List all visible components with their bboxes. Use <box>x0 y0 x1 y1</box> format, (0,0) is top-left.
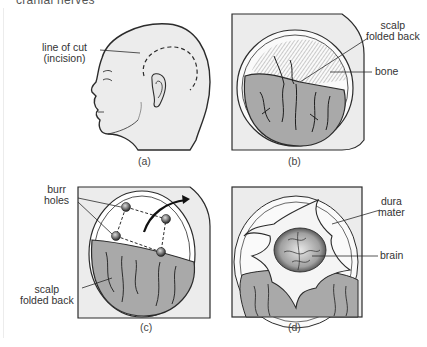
label-scalp-b-line2: folded back <box>366 31 420 42</box>
label-line-of-cut: line of cut (incision) <box>42 42 87 64</box>
panel-c-burr-holes <box>78 187 210 318</box>
panel-b-scalp-bone <box>232 14 372 150</box>
label-burr-line2: holes <box>44 195 69 206</box>
label-scalp-folded-back-b: scalp folded back <box>366 20 420 42</box>
label-scalp-c-line2: folded back <box>20 295 74 306</box>
caption-d: (d) <box>288 321 301 333</box>
caption-b: (b) <box>288 155 301 167</box>
label-brain: brain <box>380 250 403 261</box>
label-dura-mater: dura mater <box>378 196 405 218</box>
panel-d-dura-brain <box>232 187 380 328</box>
label-line-of-cut-line2: (incision) <box>42 53 87 64</box>
caption-c: (c) <box>140 321 152 333</box>
label-scalp-folded-back-c: scalp folded back <box>20 284 74 306</box>
panel-a-head-profile <box>91 24 210 150</box>
label-burr-holes: burr holes <box>44 184 69 206</box>
caption-a: (a) <box>138 155 151 167</box>
label-bone: bone <box>375 66 398 77</box>
label-dura-line2: mater <box>378 207 405 218</box>
